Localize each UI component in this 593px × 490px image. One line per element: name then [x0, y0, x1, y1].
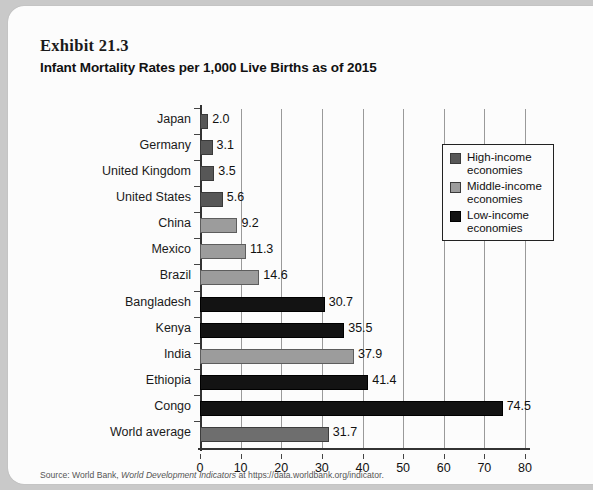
exhibit-card: Exhibit 21.3 Infant Mortality Rates per … — [8, 6, 593, 484]
legend-label-line1: Low-income — [467, 209, 529, 221]
x-tick-0 — [200, 454, 201, 459]
x-tick-60 — [444, 454, 445, 459]
bar-mexico — [200, 244, 246, 259]
legend-swatch-low-income-icon — [450, 211, 461, 222]
chart-row: Mexico11.3 — [200, 239, 525, 265]
bar-value-congo: 74.5 — [507, 399, 531, 413]
chart-row: Congo74.5 — [200, 396, 525, 422]
legend-label-line2: economies — [467, 164, 523, 176]
bar-value-mexico: 11.3 — [250, 242, 273, 256]
source-note: Source: World Bank, World Development In… — [40, 470, 384, 480]
y-tick — [194, 421, 200, 422]
bar-united-states — [200, 192, 223, 207]
legend-item-high-income: High-income economies — [450, 151, 546, 176]
bar-kenya — [200, 323, 344, 338]
category-label-brazil: Brazil — [160, 268, 191, 282]
bar-congo — [200, 401, 503, 416]
bar-value-germany: 3.1 — [217, 138, 234, 152]
x-tick-70 — [484, 454, 485, 459]
chart-row: Brazil14.6 — [200, 265, 525, 291]
x-tick-label-50: 50 — [396, 461, 410, 475]
x-axis-line — [198, 448, 530, 450]
chart-row: Kenya35.5 — [200, 318, 525, 344]
category-label-ethiopia: Ethiopia — [146, 373, 191, 387]
legend-swatch-high-income-icon — [450, 153, 461, 164]
bar-ethiopia — [200, 375, 368, 390]
exhibit-title: Infant Mortality Rates per 1,000 Live Bi… — [40, 60, 377, 75]
exhibit-number: Exhibit 21.3 — [40, 36, 129, 56]
bar-brazil — [200, 270, 259, 285]
bar-japan — [200, 114, 208, 129]
chart-row: India37.9 — [200, 344, 525, 370]
category-label-china: China — [158, 216, 191, 230]
y-tick — [194, 395, 200, 396]
category-label-india: India — [164, 347, 191, 361]
bar-value-japan: 2.0 — [212, 112, 229, 126]
legend-label-line1: Middle-income — [467, 180, 542, 192]
bar-world-average — [200, 427, 329, 442]
x-tick-10 — [241, 454, 242, 459]
bar-value-bangladesh: 30.7 — [329, 295, 353, 309]
bar-value-united-states: 5.6 — [227, 190, 244, 204]
y-tick — [194, 369, 200, 370]
source-publication: World Development Indicators — [121, 470, 236, 480]
legend-item-middle-income: Middle-income economies — [450, 180, 546, 205]
y-tick — [194, 134, 200, 135]
x-tick-20 — [281, 454, 282, 459]
legend-label-middle-income: Middle-income economies — [467, 180, 542, 205]
y-tick — [194, 238, 200, 239]
category-label-united-kingdom: United Kingdom — [102, 164, 191, 178]
chart-row: Japan2.0 — [200, 109, 525, 135]
category-label-japan: Japan — [157, 112, 191, 126]
category-label-kenya: Kenya — [156, 321, 191, 335]
y-tick — [194, 212, 200, 213]
source-suffix: at https://data.worldbank.org/indicator. — [236, 470, 384, 480]
exhibit-page: Exhibit 21.3 Infant Mortality Rates per … — [0, 0, 593, 490]
y-tick — [194, 343, 200, 344]
bar-value-world-average: 31.7 — [333, 425, 357, 439]
x-tick-label-80: 80 — [518, 461, 532, 475]
category-label-world-average: World average — [110, 425, 191, 439]
category-label-congo: Congo — [154, 399, 191, 413]
y-tick — [194, 108, 200, 109]
category-label-germany: Germany — [140, 138, 191, 152]
bar-value-china: 9.2 — [241, 216, 258, 230]
legend-swatch-middle-income-icon — [450, 182, 461, 193]
x-tick-80 — [525, 454, 526, 459]
y-tick — [194, 186, 200, 187]
bar-value-kenya: 35.5 — [348, 321, 372, 335]
legend-label-line2: economies — [467, 222, 523, 234]
chart-row: World average31.7 — [200, 422, 525, 448]
x-tick-30 — [322, 454, 323, 459]
bar-germany — [200, 140, 213, 155]
legend-label-high-income: High-income economies — [467, 151, 532, 176]
legend-label-line1: High-income — [467, 151, 532, 163]
bar-value-ethiopia: 41.4 — [372, 373, 396, 387]
bar-china — [200, 218, 237, 233]
category-label-mexico: Mexico — [151, 242, 191, 256]
chart-legend: High-income economies Middle-income econ… — [442, 144, 554, 241]
x-tick-label-60: 60 — [437, 461, 451, 475]
category-label-bangladesh: Bangladesh — [125, 295, 191, 309]
x-tick-50 — [403, 454, 404, 459]
x-tick-label-70: 70 — [477, 461, 491, 475]
y-tick — [194, 264, 200, 265]
legend-item-low-income: Low-income economies — [450, 209, 546, 234]
x-tick-40 — [363, 454, 364, 459]
y-tick — [194, 291, 200, 292]
category-label-united-states: United States — [116, 190, 191, 204]
legend-label-line2: economies — [467, 193, 523, 205]
y-tick — [194, 160, 200, 161]
y-tick — [194, 317, 200, 318]
bar-bangladesh — [200, 297, 325, 312]
bar-value-united-kingdom: 3.5 — [218, 164, 235, 178]
bar-india — [200, 349, 354, 364]
source-prefix: Source: World Bank, — [40, 470, 121, 480]
bar-value-india: 37.9 — [358, 347, 382, 361]
bar-united-kingdom — [200, 166, 214, 181]
bar-value-brazil: 14.6 — [263, 268, 287, 282]
chart-row: Bangladesh30.7 — [200, 292, 525, 318]
legend-label-low-income: Low-income economies — [467, 209, 529, 234]
chart-row: Ethiopia41.4 — [200, 370, 525, 396]
